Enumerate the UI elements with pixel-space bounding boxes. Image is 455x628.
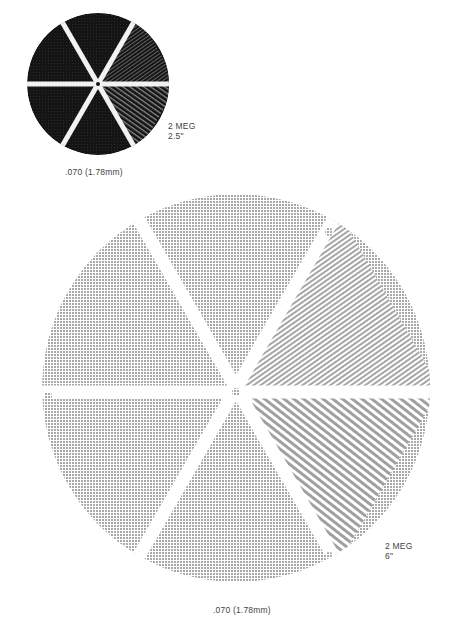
large-disk-capacity: 2 MEG <box>385 541 412 551</box>
small-disk-hub <box>96 82 100 86</box>
small-disk-dimension-label: .070 (1.78mm) <box>65 167 123 177</box>
large-disk-dimension-label: .070 (1.78mm) <box>213 605 271 615</box>
large-disk-hub <box>232 388 240 396</box>
small-disk-capacity: 2 MEG <box>168 121 195 131</box>
large-disk-size: 6" <box>385 551 412 561</box>
large-disk-spec-label: 2 MEG 6" <box>385 541 412 561</box>
large-disk <box>30 194 442 582</box>
small-disk-size: 2.5" <box>168 131 195 141</box>
small-disk-spec-label: 2 MEG 2.5" <box>168 121 195 141</box>
large-disk-index-dot-bottom-right <box>325 552 333 560</box>
large-disk-index-dot-left <box>44 392 52 400</box>
large-disk-index-dot-top-right <box>325 228 333 236</box>
disk-diagram <box>0 0 455 628</box>
small-disk <box>20 13 178 155</box>
